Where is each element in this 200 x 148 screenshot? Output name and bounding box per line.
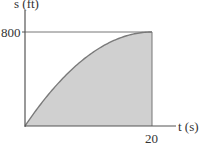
y-tick-label: 800 [1, 26, 21, 39]
x-tick-label: 20 [145, 132, 158, 145]
y-axis-label: s (ft) [14, 0, 39, 10]
position-time-chart [0, 0, 200, 148]
x-axis-label: t (s) [178, 120, 199, 133]
area-under-curve [25, 32, 152, 126]
